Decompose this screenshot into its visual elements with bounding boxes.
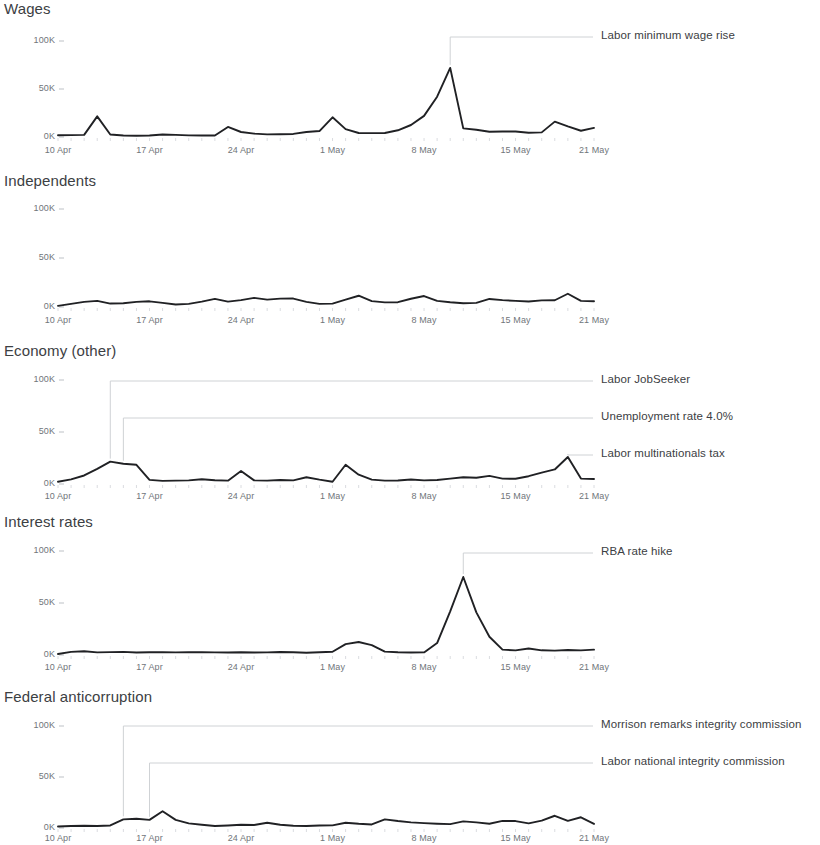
x-axis-label: 17 Apr [120, 662, 180, 672]
small-multiples-chart-stack: Wages0K50K100K10 Apr17 Apr24 Apr1 May8 M… [0, 0, 820, 845]
y-axis-label: 0K [0, 649, 55, 659]
chart-panel-title: Independents [4, 172, 96, 189]
x-axis-label: 21 May [564, 662, 624, 672]
x-axis-label: 1 May [303, 833, 363, 843]
x-axis-label: 1 May [303, 145, 363, 155]
chart-panel-title: Interest rates [4, 513, 93, 530]
x-axis-label: 10 Apr [28, 315, 88, 325]
x-axis-label: 17 Apr [120, 833, 180, 843]
x-axis-label: 1 May [303, 662, 363, 672]
annotation-leader-line [150, 763, 593, 817]
y-axis-label: 100K [0, 720, 55, 730]
x-axis-label: 24 Apr [211, 491, 271, 501]
x-axis-label: 15 May [486, 833, 546, 843]
y-axis-label: 50K [0, 771, 55, 781]
x-axis-label: 17 Apr [120, 491, 180, 501]
x-axis-label: 15 May [486, 315, 546, 325]
x-axis-label: 8 May [394, 145, 454, 155]
x-axis-label: 8 May [394, 491, 454, 501]
x-axis-label: 8 May [394, 315, 454, 325]
x-axis-label: 8 May [394, 833, 454, 843]
trend-line [58, 577, 594, 654]
y-axis-label: 100K [0, 35, 55, 45]
y-axis-label: 0K [0, 822, 55, 832]
annotation-leader-line [463, 553, 593, 574]
x-axis-label: 24 Apr [211, 315, 271, 325]
x-axis-label: 10 Apr [28, 145, 88, 155]
chart-annotation-label: RBA rate hike [601, 545, 673, 557]
chart-annotation-label: Morrison remarks integrity commission [601, 718, 802, 730]
x-axis-label: 21 May [564, 833, 624, 843]
y-axis-label: 100K [0, 545, 55, 555]
y-axis-label: 0K [0, 301, 55, 311]
annotation-leader-line [123, 726, 593, 816]
x-axis-label: 15 May [486, 145, 546, 155]
x-axis-label: 10 Apr [28, 662, 88, 672]
x-axis-label: 21 May [564, 491, 624, 501]
y-axis-label: 0K [0, 478, 55, 488]
trend-line [58, 68, 594, 136]
trend-line [58, 811, 594, 826]
x-axis-label: 24 Apr [211, 662, 271, 672]
trend-line [58, 457, 594, 482]
chart-annotation-label: Unemployment rate 4.0% [601, 410, 733, 422]
chart-panel-title: Economy (other) [4, 342, 116, 359]
annotation-leader-line [110, 381, 593, 459]
chart-annotation-label: Labor national integrity commission [601, 755, 785, 767]
y-axis-label: 50K [0, 252, 55, 262]
x-axis-label: 17 Apr [120, 315, 180, 325]
chart-annotation-label: Labor multinationals tax [601, 447, 725, 459]
x-axis-label: 10 Apr [28, 833, 88, 843]
annotation-leader-line [450, 37, 593, 65]
annotation-leader-line [123, 418, 593, 461]
x-axis-label: 15 May [486, 491, 546, 501]
x-axis-label: 24 Apr [211, 833, 271, 843]
x-axis-label: 10 Apr [28, 491, 88, 501]
annotation-leader-line [568, 454, 593, 455]
x-axis-label: 1 May [303, 315, 363, 325]
y-axis-label: 50K [0, 426, 55, 436]
y-axis-label: 0K [0, 131, 55, 141]
y-axis-label: 50K [0, 83, 55, 93]
x-axis-label: 21 May [564, 315, 624, 325]
x-axis-label: 8 May [394, 662, 454, 672]
y-axis-label: 100K [0, 203, 55, 213]
chart-annotation-label: Labor minimum wage rise [601, 29, 735, 41]
y-axis-label: 50K [0, 597, 55, 607]
chart-panel-title: Federal anticorruption [4, 688, 152, 705]
chart-panel-title: Wages [4, 0, 51, 17]
y-axis-label: 100K [0, 374, 55, 384]
x-axis-label: 24 Apr [211, 145, 271, 155]
x-axis-label: 15 May [486, 662, 546, 672]
chart-annotation-label: Labor JobSeeker [601, 373, 690, 385]
x-axis-label: 1 May [303, 491, 363, 501]
trend-line [58, 294, 594, 306]
x-axis-label: 21 May [564, 145, 624, 155]
x-axis-label: 17 Apr [120, 145, 180, 155]
